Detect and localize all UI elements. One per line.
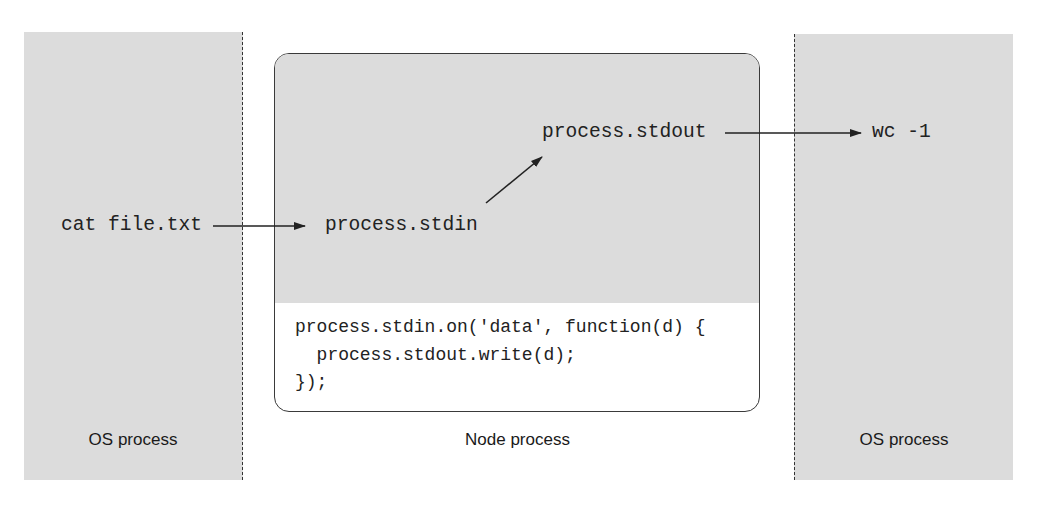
os-process-right-panel: OS process <box>794 34 1013 480</box>
code-line: process.stdout.write(d); <box>295 345 576 365</box>
cat-command-label: cat file.txt <box>61 216 202 236</box>
os-process-left-label: OS process <box>24 430 242 450</box>
os-process-left-panel: OS process <box>24 32 243 480</box>
code-line: process.stdin.on('data', function(d) { <box>295 317 705 337</box>
node-process-streams-area <box>275 54 759 303</box>
node-process-label: Node process <box>274 430 761 450</box>
stdout-label: process.stdout <box>542 123 707 143</box>
code-line: }); <box>295 372 327 392</box>
os-process-right-label: OS process <box>795 430 1013 450</box>
wc-command-label: wc -1 <box>872 123 931 143</box>
stdin-label: process.stdin <box>325 216 478 236</box>
node-code-block: process.stdin.on('data', function(d) { p… <box>295 314 705 397</box>
